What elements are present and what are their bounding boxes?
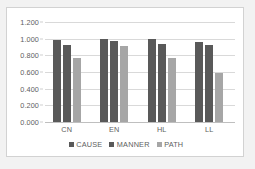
y-axis-tick-mark — [40, 72, 43, 73]
y-axis-tick-mark — [40, 105, 43, 106]
bar-group — [148, 22, 176, 122]
bar-group — [100, 22, 128, 122]
legend-item-path[interactable]: PATH — [157, 140, 184, 149]
bar-manner-en — [110, 41, 118, 122]
y-axis: 0.0000.2000.4000.6000.8001.0001.200 — [7, 22, 43, 123]
plot-area — [45, 22, 235, 123]
x-axis-tick-label: CN — [61, 125, 72, 134]
bar-group — [53, 22, 81, 122]
y-axis-tick-mark — [40, 55, 43, 56]
y-axis-tick-mark — [40, 22, 43, 23]
y-axis-tick-label: 0.200 — [20, 101, 39, 110]
bar-path-ll — [215, 73, 223, 122]
y-axis-tick-label: 0.400 — [20, 84, 39, 93]
x-axis-tick-label: EN — [109, 125, 120, 134]
legend-item-cause[interactable]: CAUSE — [69, 140, 103, 149]
y-axis-tick-mark — [40, 38, 43, 39]
legend-swatch-icon — [69, 142, 74, 147]
x-axis: CNENHLLL — [45, 125, 235, 139]
bar-manner-hl — [158, 44, 166, 122]
chart-figure: 0.0000.2000.4000.6000.8001.0001.200 CNEN… — [0, 0, 255, 169]
bar-manner-cn — [63, 45, 71, 122]
y-axis-tick-label: 0.000 — [20, 118, 39, 127]
legend-item-manner[interactable]: MANNER — [109, 140, 149, 149]
legend-label: CAUSE — [76, 140, 102, 149]
bar-path-cn — [73, 58, 81, 122]
y-axis-tick-label: 0.600 — [20, 68, 39, 77]
y-axis-tick-label: 1.000 — [20, 34, 39, 43]
y-axis-tick-mark — [40, 88, 43, 89]
bars-layer — [45, 22, 235, 123]
bar-cause-en — [100, 39, 108, 122]
bar-path-hl — [168, 58, 176, 122]
bar-cause-ll — [195, 42, 203, 122]
bar-manner-ll — [205, 45, 213, 122]
bar-group — [195, 22, 223, 122]
legend-swatch-icon — [109, 142, 114, 147]
bar-path-en — [120, 46, 128, 122]
bar-cause-cn — [53, 40, 61, 123]
x-axis-tick-label: HL — [157, 125, 167, 134]
x-axis-tick-label: LL — [205, 125, 214, 134]
legend-swatch-icon — [157, 142, 162, 147]
legend-label: PATH — [164, 140, 183, 149]
chart-card: 0.0000.2000.4000.6000.8001.0001.200 CNEN… — [6, 7, 244, 157]
y-axis-tick-mark — [40, 122, 43, 123]
bar-cause-hl — [148, 39, 156, 122]
y-axis-tick-label: 0.800 — [20, 51, 39, 60]
y-axis-tick-label: 1.200 — [20, 18, 39, 27]
legend-label: MANNER — [117, 140, 150, 149]
chart-legend: CAUSEMANNERPATH — [7, 140, 245, 149]
